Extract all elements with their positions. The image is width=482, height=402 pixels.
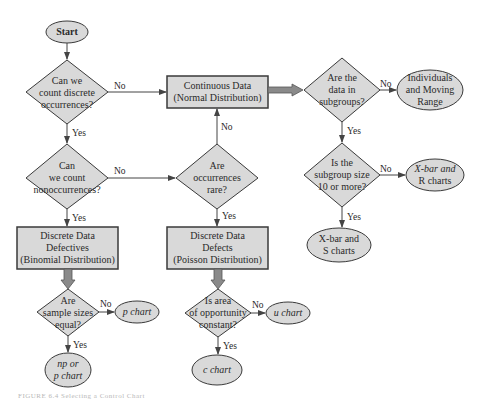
u-chart-node: u chart	[266, 307, 310, 319]
continuous-node: Continuous Data (Normal Distribution)	[167, 80, 268, 104]
edge-label-no: No	[221, 122, 233, 133]
c-chart-node: c chart	[192, 364, 242, 376]
figure-caption: FIGURE 6.4 Selecting a Control Chart	[18, 392, 145, 400]
edge-label-no: No	[100, 299, 112, 310]
xbar-r-node: X-bar and R charts	[406, 163, 464, 187]
start-node: Start	[46, 26, 88, 38]
q-discrete-node: Can we count discrete occurrences?	[27, 75, 107, 111]
q-nonoccur-node: Can we count nonoccurrences?	[22, 160, 112, 196]
q-subgroups-node: Are the data in subgroups?	[304, 72, 380, 108]
xbar-s-node: X-bar and S charts	[307, 233, 371, 257]
edge-label-no: No	[114, 166, 126, 177]
edge-label-yes: Yes	[347, 126, 361, 137]
q-equal-node: Are sample sizes equal?	[33, 295, 103, 331]
np-chart-node: np or p chart	[45, 358, 91, 382]
edge-label-no: No	[380, 164, 392, 175]
q-area-node: Is area of opportunity constant?	[180, 295, 256, 331]
edge-label-yes: Yes	[72, 128, 86, 139]
defectives-node: Discrete Data Defectives (Binomial Distr…	[17, 230, 118, 266]
q-rare-node: Are occurrences rare?	[177, 160, 257, 196]
edge-label-no: No	[252, 300, 264, 311]
p-chart-node: p chart	[115, 306, 159, 318]
edge-label-yes: Yes	[223, 341, 237, 352]
edge-label-yes: Yes	[72, 213, 86, 224]
edge-label-yes: Yes	[73, 340, 87, 351]
edge-label-yes: Yes	[347, 212, 361, 223]
edge-label-no: No	[380, 79, 392, 90]
q-size10-node: Is the subgroup size 10 or more?	[302, 157, 382, 193]
defects-node: Discrete Data Defects (Poisson Distribut…	[167, 230, 268, 266]
individuals-node: Individuals and Moving Range	[397, 72, 463, 108]
edge-label-no: No	[114, 81, 126, 92]
edge-label-yes: Yes	[222, 211, 236, 222]
